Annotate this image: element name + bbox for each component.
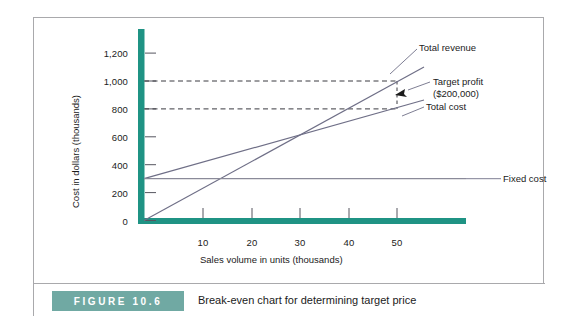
figure-frame: 0 200 400 600 800 1,000 1,200 10 20 30 4… — [33, 17, 544, 316]
total-revenue-leader — [390, 49, 417, 74]
annotation-total-revenue: Total revenue — [419, 42, 476, 54]
y-tick-label-400: 400 — [84, 160, 128, 171]
x-tick-label-30: 30 — [285, 237, 315, 248]
y-tick-label-1200: 1,200 — [84, 48, 128, 59]
x-tick-label-40: 40 — [334, 237, 364, 248]
annotation-target-profit-line2: ($200,000) — [433, 88, 479, 99]
x-axis-title: Sales volume in units (thousands) — [200, 254, 343, 265]
x-tick-label-10: 10 — [188, 237, 218, 248]
total-cost-line — [144, 100, 424, 179]
target-profit-leader — [408, 82, 430, 90]
y-axis-bar — [138, 29, 145, 221]
y-tick-label-600: 600 — [84, 132, 128, 143]
annotation-target-profit-line1: Target profit — [433, 76, 483, 87]
annotation-total-cost: Total cost — [426, 101, 466, 113]
x-tick-label-20: 20 — [237, 237, 267, 248]
y-tick-label-1000: 1,000 — [84, 76, 128, 87]
x-axis-bar — [138, 218, 466, 224]
x-axis-ticks — [203, 208, 397, 218]
annotation-target-profit: Target profit ($200,000) — [433, 76, 483, 99]
y-axis-ticks — [145, 53, 156, 220]
figure-caption-strip: FIGURE 10.6 Break-even chart for determi… — [34, 283, 545, 317]
figure-number-badge: FIGURE 10.6 — [52, 291, 184, 311]
annotation-fixed-cost: Fixed cost — [503, 173, 546, 185]
total-revenue-line — [144, 67, 424, 221]
chart-plot-area: 0 200 400 600 800 1,000 1,200 10 20 30 4… — [34, 18, 545, 283]
y-tick-label-0: 0 — [84, 216, 128, 227]
y-tick-label-200: 200 — [84, 188, 128, 199]
x-tick-label-50: 50 — [382, 237, 412, 248]
total-cost-leader — [402, 107, 424, 116]
y-tick-label-800: 800 — [84, 104, 128, 115]
figure-caption-text: Break-even chart for determining target … — [198, 294, 416, 306]
y-axis-title: Cost in dollars (thousands) — [70, 95, 81, 208]
figure-root: 0 200 400 600 800 1,000 1,200 10 20 30 4… — [0, 0, 570, 331]
